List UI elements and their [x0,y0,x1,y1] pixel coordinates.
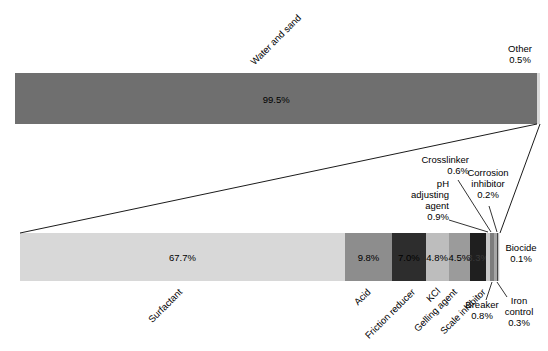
bar-segment-kcl: 4.8% [426,233,449,281]
composition-chart: 99.5% 67.7%9.8%7.0%4.8%4.5%3.3% Water an… [0,0,548,351]
leader-ph-adjusting-agent [449,220,488,232]
segment-label-acid: Acid [352,287,372,307]
callout-iron-control: Iron control 0.3% [498,295,540,328]
leader-corrosion-inhibitor [489,206,497,232]
bar-segment-other [537,73,540,124]
bar-segment-surfactant: 67.7% [20,233,345,281]
bar-segment-acid: 9.8% [345,233,392,281]
callout-iron-name: Iron control [498,295,540,317]
callout-corrosion-inhibitor: Corrosion inhibitor 0.2% [464,167,512,200]
callout-crosslinker-name: Crosslinker [410,154,469,165]
leader-breaker [486,282,492,300]
segment-pct-friction-reducer: 7.0% [398,252,420,263]
callout-crosslinker-pct: 0.6% [410,165,469,176]
segment-pct-acid: 9.8% [358,252,380,263]
top-composition-bar: 99.5% [15,73,540,124]
segment-pct-kcl: 4.8% [426,252,448,263]
callout-biocide-name: Biocide [502,242,540,253]
callout-crosslinker: Crosslinker 0.6% [410,154,469,176]
segment-pct-water-and-sand: 99.5% [263,93,290,104]
segment-label-surfactant: Surfactant [146,287,184,325]
callout-other-pct: 0.5% [498,54,542,65]
callout-biocide-pct: 0.1% [502,253,540,264]
callout-corrosion-pct: 0.2% [464,189,512,200]
callout-ph-pct: 0.9% [399,211,449,222]
bar-segment-friction-reducer: 7.0% [392,233,426,281]
other-breakdown-bar: 67.7%9.8%7.0%4.8%4.5%3.3% [20,233,500,281]
callout-other: Other 0.5% [498,43,542,65]
callout-corrosion-name: Corrosion inhibitor [464,167,512,189]
zoom-line-left [20,124,537,233]
segment-pct-surfactant: 67.7% [169,252,196,263]
callout-ph-adjusting-agent: pH adjusting agent 0.9% [399,178,449,222]
callout-biocide: Biocide 0.1% [502,242,540,264]
segment-label-water-and-sand: Water and sand [249,13,303,67]
bar-segment-water-and-sand: 99.5% [15,73,537,124]
callout-iron-pct: 0.3% [498,317,540,328]
bar-segment-scale-inhibitor: 3.3% [470,233,486,281]
callout-ph-name: pH adjusting agent [399,178,449,211]
callout-other-name: Other [498,43,542,54]
